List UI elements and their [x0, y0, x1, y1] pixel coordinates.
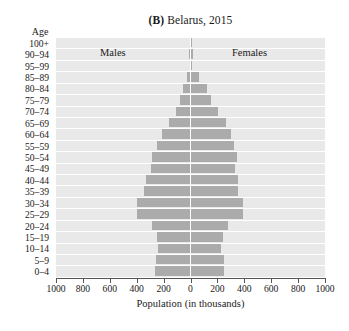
x-axis-tick-label: 800	[76, 283, 90, 294]
bar-males	[144, 186, 190, 195]
x-axis-tick-label: 400	[237, 283, 251, 294]
series-label-males: Males	[100, 47, 126, 58]
age-group-label: 5–9	[35, 256, 49, 266]
population-pyramid-figure: (B) Belarus, 2015 Age 100+90–9495–9985–8…	[0, 0, 349, 331]
age-group-label: 20–24	[25, 222, 49, 232]
age-group-label: 75–79	[25, 96, 49, 106]
age-group-label: 10–14	[25, 244, 49, 254]
bar-males	[158, 244, 190, 253]
bar-females	[191, 164, 235, 173]
bar-females	[191, 255, 225, 264]
bar-males	[152, 221, 191, 230]
age-group-label: 55–59	[25, 142, 49, 152]
bar-females	[191, 152, 237, 161]
x-axis-tick-label: 800	[291, 283, 305, 294]
bar-males	[157, 141, 191, 150]
x-axis-tick-label: 1000	[315, 283, 334, 294]
x-axis-tick-label: 1000	[46, 283, 65, 294]
age-group-label: 50–54	[25, 153, 49, 163]
bar-females	[191, 72, 199, 81]
age-axis-header: Age	[26, 26, 54, 37]
bar-males	[169, 118, 191, 127]
bar-females	[191, 266, 225, 275]
bar-females	[191, 118, 227, 127]
bar-females	[191, 129, 231, 138]
bar-males	[156, 255, 191, 264]
age-group-label: 95–99	[25, 62, 49, 72]
age-group-label: 60–64	[25, 130, 49, 140]
bar-females	[191, 244, 222, 253]
plot-area	[56, 38, 325, 278]
age-group-label: 85–89	[25, 73, 49, 83]
bar-females	[191, 141, 235, 150]
age-group-label: 25–29	[25, 210, 49, 220]
center-axis-line	[190, 38, 191, 278]
series-label-females: Females	[232, 47, 267, 58]
age-axis-labels: 100+90–9495–9985–8980–8475–7970–7465–696…	[0, 38, 52, 278]
bar-females	[191, 221, 229, 230]
age-group-label: 40–44	[25, 176, 49, 186]
panel-letter: (B)	[149, 14, 165, 26]
bar-males	[146, 175, 190, 184]
bar-males	[162, 129, 190, 138]
x-axis-tick-label: 0	[188, 283, 193, 294]
figure-title: (B) Belarus, 2015	[56, 14, 325, 26]
bar-females	[191, 107, 219, 116]
bar-males	[152, 152, 190, 161]
age-group-label: 70–74	[25, 107, 49, 117]
figure-title-text: Belarus, 2015	[167, 14, 232, 26]
age-group-label: 90–94	[25, 50, 49, 60]
bar-males	[137, 198, 190, 207]
x-axis-title: Population (in thousands)	[56, 298, 325, 309]
age-group-label: 80–84	[25, 84, 49, 94]
bar-females	[191, 95, 211, 104]
x-axis-tick-label: 200	[156, 283, 170, 294]
bar-females	[191, 175, 238, 184]
age-group-label: 100+	[29, 39, 49, 49]
age-group-label: 45–49	[25, 164, 49, 174]
age-group-label: 35–39	[25, 187, 49, 197]
x-axis-tick-label: 600	[264, 283, 278, 294]
age-group-label: 15–19	[25, 233, 49, 243]
bar-males	[155, 266, 191, 275]
bar-males	[137, 209, 191, 218]
bar-females	[191, 232, 223, 241]
bar-females	[191, 186, 239, 195]
bar-females	[191, 209, 243, 218]
bar-males	[157, 232, 191, 241]
bar-males	[176, 107, 191, 116]
x-axis-tick-label: 200	[210, 283, 224, 294]
age-group-label: 30–34	[25, 199, 49, 209]
age-group-label: 65–69	[25, 119, 49, 129]
x-axis-tick-label: 400	[129, 283, 143, 294]
x-axis-tick-label: 600	[103, 283, 117, 294]
bar-females	[191, 84, 207, 93]
age-group-label: 0–4	[35, 267, 49, 277]
bar-females	[191, 198, 243, 207]
bar-males	[151, 164, 191, 173]
